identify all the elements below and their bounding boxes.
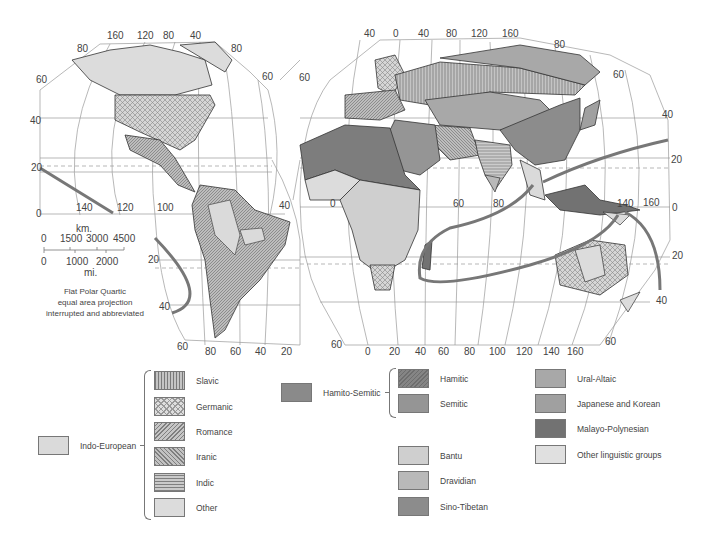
western-europe: [345, 90, 405, 120]
swatch-bantu: [398, 446, 429, 465]
legend-other-groups: Other linguistic groups: [535, 445, 662, 464]
legend-hamitic: Hamitic: [398, 369, 468, 388]
scale-km-tick: 0: [41, 233, 47, 244]
legend-romance: Romance: [154, 422, 232, 441]
migration-route-newzealand: [625, 212, 660, 290]
swatch-hamitic: [398, 369, 429, 388]
lon-label: 120: [516, 346, 533, 357]
legend-ie-other: Other: [154, 498, 217, 517]
lon-label: 140: [76, 202, 93, 213]
lon-label: 100: [157, 202, 174, 213]
lat-label: 40: [279, 200, 291, 211]
lon-label: 80: [493, 198, 505, 209]
lat-label: 40: [662, 109, 674, 120]
legend-dravidian: Dravidian: [398, 471, 476, 490]
lon-label: 80: [446, 28, 458, 39]
lat-label: 40: [159, 301, 171, 312]
legend-ural-altaic: Ural-Altaic: [535, 369, 616, 388]
lat-label: 40: [656, 295, 668, 306]
lon-label: 40: [255, 346, 267, 357]
lon-label: 120: [137, 30, 154, 41]
lon-label: 40: [190, 30, 202, 41]
lon-label: 60: [438, 346, 450, 357]
legend-semitic: Semitic: [398, 394, 468, 413]
lat-label: 0: [36, 208, 42, 219]
japan-korea: [580, 100, 600, 130]
lon-label: 160: [107, 30, 124, 41]
swatch-sino-tibetan: [398, 497, 429, 516]
swatch-romance: [154, 422, 185, 441]
lon-label: 60: [453, 198, 465, 209]
scale-mi-tick: 0: [41, 256, 47, 267]
swatch-indic: [154, 473, 185, 492]
north-america-canada: [72, 45, 212, 95]
lon-label: 20: [389, 346, 401, 357]
lat-label: 40: [30, 115, 42, 126]
lat-label: 60: [331, 339, 343, 350]
scale-mi-label: mi.: [84, 267, 97, 278]
legend-iranic: Iranic: [154, 447, 217, 466]
lon-label: 60: [230, 346, 242, 357]
legend-malayo-polynesian: Malayo-Polynesian: [535, 419, 649, 438]
legend-sino-tibetan: Sino-Tibetan: [398, 497, 488, 516]
legend-slavic: Slavic: [154, 371, 219, 390]
lat-label: 60: [613, 69, 625, 80]
swatch-semitic: [398, 394, 429, 413]
scale-mi-tick: 2000: [96, 256, 118, 267]
lat-label: 20: [671, 154, 683, 165]
swatch-japanese-korean: [535, 394, 566, 413]
legend-germanic: Germanic: [154, 397, 233, 416]
lon-label: 120: [471, 28, 488, 39]
legend-indic: Indic: [154, 473, 214, 492]
lat-label: 80: [77, 43, 89, 54]
scale-km-tick: 1500: [60, 233, 82, 244]
brace-indo-european: [144, 370, 151, 520]
lon-label: 0: [365, 346, 371, 357]
lon-label: 120: [117, 202, 134, 213]
lat-label: 80: [554, 39, 566, 50]
lon-label: 40: [415, 346, 427, 357]
lat-label: 20: [31, 162, 43, 173]
brace-hamito-semitic: [389, 368, 396, 418]
swatch-ie-other: [154, 498, 185, 517]
lon-label: 0: [393, 28, 399, 39]
lat-label: 60: [177, 341, 189, 352]
lat-label: 0: [672, 202, 678, 213]
lat-label: 60: [299, 72, 311, 83]
lat-label: 20: [148, 254, 160, 265]
legend-japanese-korean: Japanese and Korean: [535, 394, 660, 413]
lat-label: 80: [231, 43, 243, 54]
swatch-iranic: [154, 447, 185, 466]
swatch-ural-altaic: [535, 369, 566, 388]
legend-hamito-semitic: Hamito-Semitic: [281, 383, 381, 402]
south-america: [192, 185, 290, 338]
lat-label: 60: [262, 71, 274, 82]
lon-label: 80: [205, 346, 217, 357]
swatch-dravidian: [398, 471, 429, 490]
interruption-gap: [280, 60, 300, 200]
scale-km-tick: 3000: [86, 233, 108, 244]
swatch-indo-european: [38, 436, 69, 455]
lon-label: 140: [543, 346, 560, 357]
lon-label: 0: [330, 198, 336, 209]
swatch-germanic: [154, 397, 185, 416]
lon-label: 80: [464, 346, 476, 357]
swatch-malayo-polynesian: [535, 419, 566, 438]
legend-bantu: Bantu: [398, 446, 462, 465]
lon-label: 160: [643, 197, 660, 208]
legend-indo-european: Indo-European: [38, 436, 136, 455]
lon-label: 80: [163, 30, 175, 41]
lon-label: 40: [418, 28, 430, 39]
scale-km-tick: 4500: [113, 233, 135, 244]
swatch-hamito-semitic: [281, 383, 312, 402]
lat-label: 60: [605, 336, 617, 347]
lon-label: 160: [502, 28, 519, 39]
lat-label: 20: [672, 250, 684, 261]
lon-label: 40: [364, 28, 376, 39]
lon-label: 100: [489, 346, 506, 357]
lon-label: 20: [281, 346, 293, 357]
lat-label: 60: [36, 74, 48, 85]
south-africa-germanic: [370, 265, 395, 290]
lon-label: 140: [617, 198, 634, 209]
lon-label: 160: [567, 346, 584, 357]
